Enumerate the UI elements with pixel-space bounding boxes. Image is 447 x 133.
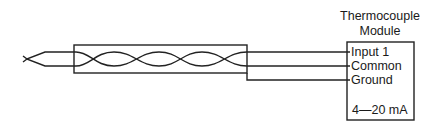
- module-title: Thermocouple Module: [320, 9, 440, 39]
- output-range: 4—20 mA: [352, 103, 408, 117]
- cable-shield: [74, 45, 247, 73]
- terminal-common: Common: [351, 59, 402, 73]
- terminal-input1: Input 1: [351, 45, 389, 59]
- thermocouple-junction-icon: [23, 52, 76, 59]
- wire-ground: [247, 73, 350, 80]
- terminal-ground: Ground: [351, 73, 393, 87]
